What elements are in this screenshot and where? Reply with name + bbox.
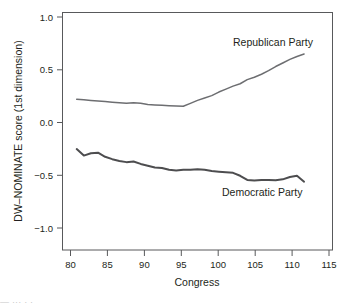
republican-party-label: Republican Party xyxy=(233,36,314,48)
y-tick-label: −1.0 xyxy=(34,223,53,234)
x-tick-label: 95 xyxy=(176,259,187,270)
y-tick-label: −0.5 xyxy=(34,170,53,181)
plot-frame xyxy=(63,13,333,251)
x-tick-label: 115 xyxy=(321,259,336,270)
x-tick-label: 90 xyxy=(139,259,150,270)
x-tick-label: 85 xyxy=(102,259,113,270)
figure-container: 1.0 0.5 0.0 −0.5 −1.0 80 85 90 95 100 10… xyxy=(0,0,358,307)
x-axis-ticks xyxy=(71,250,330,256)
democratic-party-line xyxy=(77,149,304,182)
x-tick-label: 105 xyxy=(247,259,263,270)
y-axis-ticks xyxy=(57,17,63,228)
cut-off-caption: — ··· · · xyxy=(0,298,358,307)
dw-nominate-line-chart: 1.0 0.5 0.0 −0.5 −1.0 80 85 90 95 100 10… xyxy=(0,0,358,307)
y-axis-tick-labels: 1.0 0.5 0.0 −0.5 −1.0 xyxy=(34,12,53,234)
x-tick-label: 100 xyxy=(210,259,226,270)
y-tick-label: 0.5 xyxy=(40,64,53,75)
y-tick-label: 1.0 xyxy=(40,12,53,23)
x-tick-label: 110 xyxy=(285,259,300,270)
caption-text: — ··· · · xyxy=(0,298,358,307)
y-axis-title: DW–NOMINATE score (1st dimension) xyxy=(12,40,24,221)
x-axis-tick-labels: 80 85 90 95 100 105 110 115 xyxy=(65,259,336,270)
y-tick-label: 0.0 xyxy=(40,117,53,128)
republican-party-line xyxy=(77,54,304,106)
democratic-party-label: Democratic Party xyxy=(222,186,303,198)
x-axis-title: Congress xyxy=(175,276,220,288)
x-tick-label: 80 xyxy=(65,259,76,270)
